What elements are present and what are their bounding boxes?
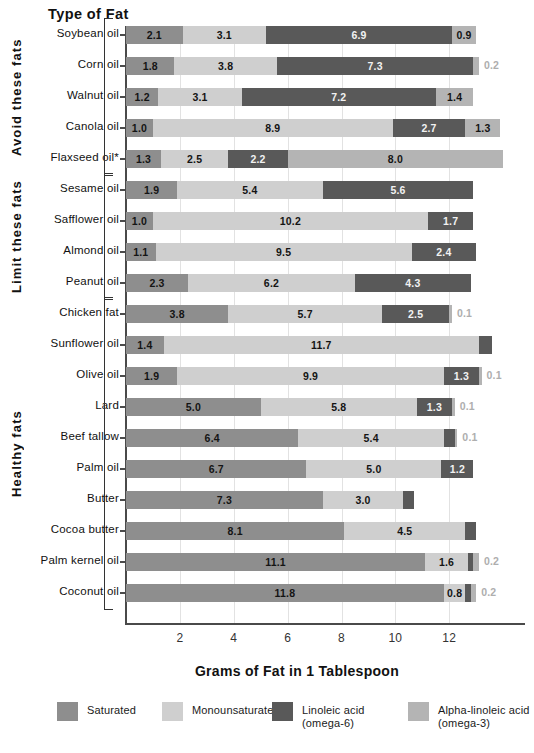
bar-segment-sat[interactable]: 1.4 [126,336,164,354]
stacked-bar[interactable]: 7.33.0 [126,491,414,509]
legend-item-lin[interactable]: Linoleic acid(omega-6) [272,702,365,730]
bar-segment-mono[interactable]: 9.5 [156,243,412,261]
bar-segment-lin[interactable]: 2.7 [393,119,466,137]
bar-segment-ala[interactable] [473,57,478,75]
plot-area: Soybean oil2.13.16.90.9Corn oil0.21.83.8… [126,26,522,623]
bar-segment-lin[interactable] [444,429,455,447]
bar-segment-mono[interactable]: 3.0 [323,491,404,509]
segment-value: 3.0 [355,494,370,506]
stacked-bar[interactable]: 1.32.52.28.0 [126,150,503,168]
bar-segment-ala[interactable]: 8.0 [288,150,504,168]
stacked-bar[interactable]: 1.08.92.71.3 [126,119,500,137]
bar-segment-sat[interactable]: 11.8 [126,584,444,602]
bar-segment-sat[interactable]: 8.1 [126,522,344,540]
bar-segment-ala[interactable]: 0.9 [452,26,476,44]
bar-segment-sat[interactable]: 11.1 [126,553,425,571]
stacked-bar[interactable]: 1.23.17.21.4 [126,88,473,106]
segment-value: 1.6 [439,556,454,568]
bar-segment-lin[interactable]: 1.2 [441,460,473,478]
stacked-bar[interactable]: 1.411.7 [126,336,492,354]
bar-segment-mono[interactable]: 3.1 [158,88,242,106]
bar-segment-mono[interactable]: 1.6 [425,553,468,571]
bar-segment-lin[interactable]: 1.3 [417,398,452,416]
bar-segment-mono[interactable]: 2.5 [161,150,228,168]
segment-value: 5.0 [366,463,381,475]
bar-segment-ala[interactable] [449,305,452,323]
bar-segment-ala[interactable]: 1.3 [465,119,500,137]
bar-segment-sat[interactable]: 3.8 [126,305,228,323]
stacked-bar[interactable]: 6.45.4 [126,429,457,447]
bar-segment-ala[interactable] [473,553,478,571]
bar-segment-lin[interactable]: 6.9 [266,26,452,44]
bar-segment-lin[interactable]: 2.5 [382,305,449,323]
bar-segment-sat[interactable]: 7.3 [126,491,323,509]
bar-segment-mono[interactable]: 6.2 [188,274,355,292]
bar-segment-lin[interactable]: 7.3 [277,57,474,75]
stacked-bar[interactable]: 11.80.8 [126,584,476,602]
stacked-bar[interactable]: 8.14.5 [126,522,476,540]
segment-value: 1.4 [137,339,152,351]
segment-value: 2.2 [250,153,265,165]
bar-segment-lin[interactable]: 1.7 [428,212,474,230]
bar-segment-lin[interactable]: 7.2 [242,88,436,106]
bar-segment-lin[interactable] [465,522,476,540]
bar-segment-sat[interactable]: 1.9 [126,181,177,199]
bar-segment-mono[interactable]: 9.9 [177,367,444,385]
stacked-bar[interactable]: 1.010.21.7 [126,212,473,230]
bar-segment-lin[interactable] [479,336,492,354]
bar-segment-mono[interactable]: 5.7 [228,305,382,323]
stacked-bar[interactable]: 2.36.24.3 [126,274,471,292]
stacked-bar[interactable]: 11.11.6 [126,553,479,571]
bar-segment-mono[interactable]: 4.5 [344,522,465,540]
legend-item-mono[interactable]: Monounsaturated [162,702,280,721]
legend-sublabel: (omega-3) [438,717,530,730]
segment-value-outside: 0.1 [460,400,475,412]
bar-segment-sat[interactable]: 1.8 [126,57,174,75]
bar-segment-ala[interactable] [471,584,476,602]
bar-segment-mono[interactable]: 5.8 [261,398,417,416]
bar-segment-lin[interactable]: 2.2 [228,150,287,168]
chart-row: Walnut oil1.23.17.21.4 [126,88,522,106]
bar-segment-sat[interactable]: 1.1 [126,243,156,261]
stacked-bar[interactable]: 1.95.45.6 [126,181,473,199]
bar-segment-sat[interactable]: 2.1 [126,26,183,44]
bar-segment-mono[interactable]: 5.0 [306,460,441,478]
bar-segment-mono[interactable]: 3.8 [174,57,276,75]
legend-item-sat[interactable]: Saturated [57,702,136,721]
bar-segment-mono[interactable]: 10.2 [153,212,428,230]
legend-item-ala[interactable]: Alpha-linoleic acid(omega-3) [408,702,530,730]
bar-segment-sat[interactable]: 1.3 [126,150,161,168]
stacked-bar[interactable]: 1.19.52.4 [126,243,476,261]
bar-segment-sat[interactable]: 1.9 [126,367,177,385]
bar-segment-lin[interactable]: 2.4 [412,243,477,261]
bar-segment-sat[interactable]: 1.2 [126,88,158,106]
bar-segment-ala[interactable] [455,429,458,447]
stacked-bar[interactable]: 2.13.16.90.9 [126,26,476,44]
bar-segment-sat[interactable]: 1.0 [126,212,153,230]
bar-segment-ala[interactable] [452,398,455,416]
bar-segment-sat[interactable]: 1.0 [126,119,153,137]
bar-segment-sat[interactable]: 5.0 [126,398,261,416]
bar-segment-mono[interactable]: 5.4 [298,429,443,447]
bar-segment-ala[interactable] [479,367,482,385]
bar-segment-lin[interactable]: 4.3 [355,274,471,292]
bar-segment-sat[interactable]: 6.7 [126,460,306,478]
bar-segment-sat[interactable]: 2.3 [126,274,188,292]
bar-segment-lin[interactable]: 5.6 [323,181,474,199]
segment-value: 8.9 [265,122,280,134]
stacked-bar[interactable]: 3.85.72.5 [126,305,452,323]
bar-segment-sat[interactable]: 6.4 [126,429,298,447]
bar-segment-mono[interactable]: 3.1 [183,26,267,44]
stacked-bar[interactable]: 6.75.01.2 [126,460,473,478]
bar-segment-mono[interactable]: 8.9 [153,119,393,137]
bar-segment-ala[interactable]: 1.4 [436,88,474,106]
stacked-bar[interactable]: 5.05.81.3 [126,398,455,416]
bar-segment-mono[interactable]: 5.4 [177,181,322,199]
bar-segment-mono[interactable]: 11.7 [164,336,479,354]
bar-segment-mono[interactable]: 0.8 [444,584,466,602]
bar-segment-lin[interactable]: 1.3 [444,367,479,385]
bar-segment-lin[interactable] [403,491,414,509]
stacked-bar[interactable]: 1.83.87.3 [126,57,479,75]
stacked-bar[interactable]: 1.99.91.3 [126,367,482,385]
legend-sublabel: (omega-6) [302,717,365,730]
